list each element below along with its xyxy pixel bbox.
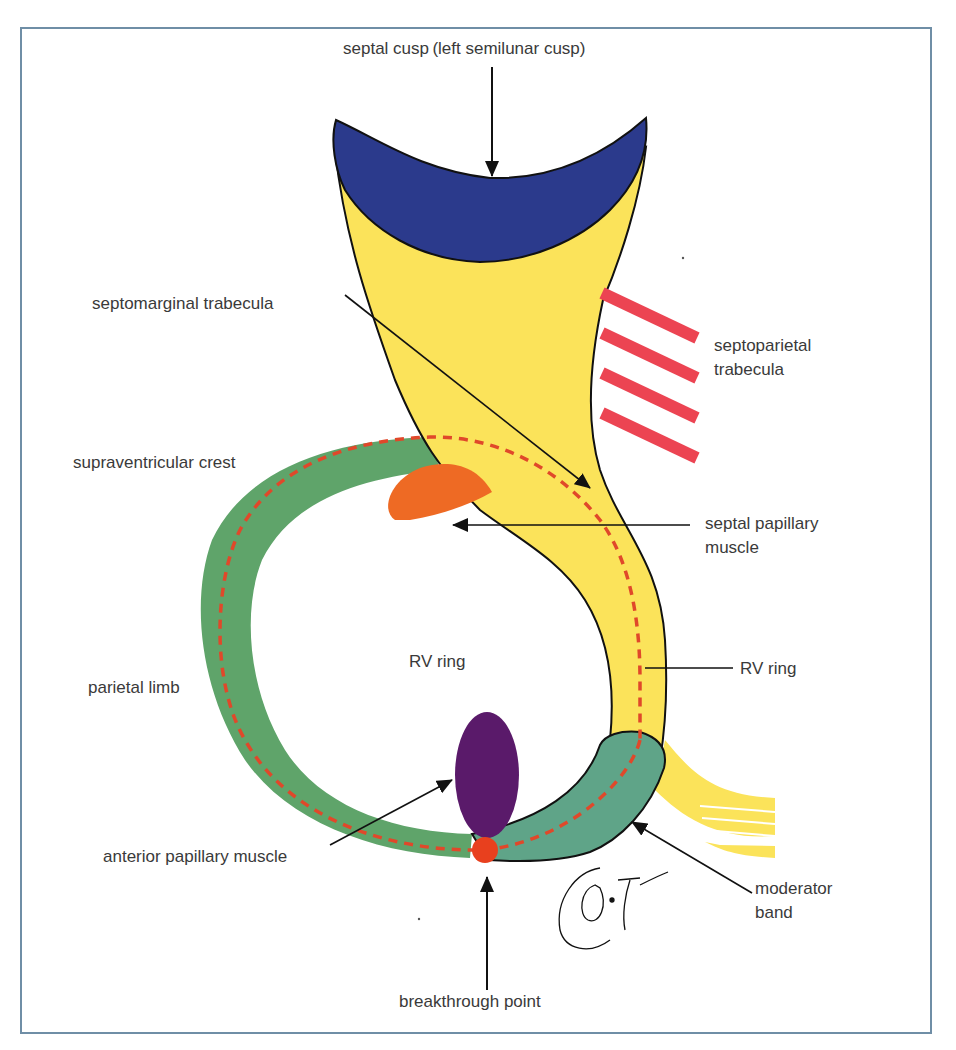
label-septal-papillary-line2: muscle [705,536,835,560]
label-septal-cusp: septal cusp (left semilunar cusp) [343,37,585,61]
label-septoparietal-line2: trabecula [714,358,844,382]
label-moderator-band: moderator band [755,877,855,925]
stray-dot [682,257,684,259]
label-rv-ring-center: RV ring [409,650,465,674]
label-moderator-line2: band [755,901,855,925]
label-rv-ring-right: RV ring [740,657,796,681]
signature [559,868,668,949]
label-septal-papillary-line1: septal papillary [705,512,835,536]
label-moderator-line1: moderator [755,877,855,901]
label-septomarginal-trabecula: septomarginal trabecula [92,292,273,316]
moderator-band-fibres [655,740,775,858]
label-septoparietal-line1: septoparietal [714,334,844,358]
label-anterior-papillary-muscle: anterior papillary muscle [103,845,287,869]
label-breakthrough-point: breakthrough point [399,990,541,1014]
anterior-papillary-muscle-shape [455,712,519,838]
label-parietal-limb: parietal limb [88,676,180,700]
septoparietal-trabecula-bars [602,293,697,458]
breakthrough-point-dot [472,837,498,863]
label-septoparietal-trabecula: septoparietal trabecula [714,334,844,382]
stray-dot [418,918,420,920]
label-supraventricular-crest: supraventricular crest [73,451,236,475]
label-septal-papillary-muscle: septal papillary muscle [705,512,835,560]
